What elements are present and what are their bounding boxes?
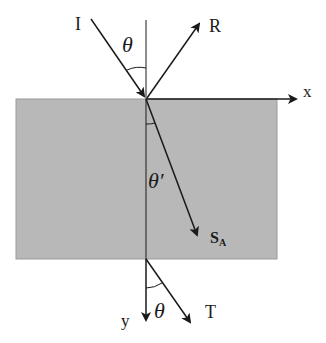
label-angle-refracted: θ′ [148,168,165,193]
label-transmitted: T [205,302,216,322]
label-poynting-sub: A [219,237,227,248]
slab-refraction-diagram: I R x θ θ′ SA y θ T [0,0,326,343]
incident-ray [91,19,144,96]
angle-arc-incident [127,67,146,70]
label-incident: I [75,14,81,34]
label-y-axis: y [121,311,130,330]
label-poynting-main: S [210,229,219,246]
transmitted-ray [146,259,190,322]
label-angle-incident: θ [122,32,133,57]
angle-arc-transmitted [146,283,162,288]
label-angle-transmitted: θ [154,298,165,323]
label-x-axis: x [303,82,312,101]
label-reflected: R [209,16,221,36]
reflected-ray [147,24,199,98]
